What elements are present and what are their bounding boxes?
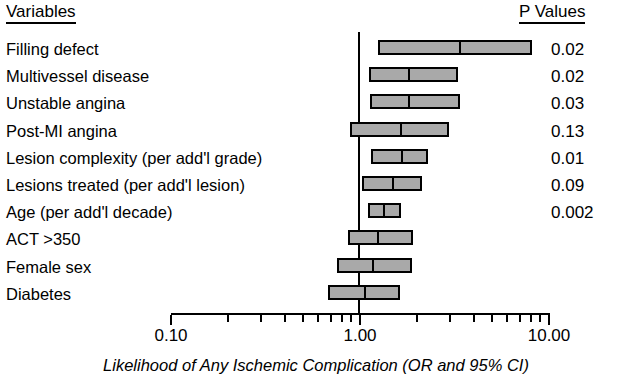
x-tick-label: 1.00 [343, 326, 376, 346]
point-estimate-marker [364, 285, 366, 300]
p-value: 0.09 [551, 177, 584, 194]
x-tick-minor [317, 315, 319, 322]
x-tick-minor [350, 315, 352, 322]
x-axis-title: Likelihood of Any Ischemic Complication … [0, 356, 632, 375]
point-estimate-marker [408, 94, 410, 109]
confidence-interval-bar [378, 40, 531, 55]
x-tick-minor [284, 315, 286, 322]
variables-header-label: Variables [6, 2, 76, 24]
x-tick-minor [506, 315, 508, 322]
point-estimate-marker [408, 67, 410, 82]
x-tick-minor [473, 315, 475, 322]
x-tick-minor [302, 315, 304, 322]
point-estimate-marker [383, 203, 385, 218]
row-label: Lesions treated (per add'l lesion) [6, 177, 245, 194]
point-estimate-marker [459, 40, 461, 55]
p-value: 0.02 [551, 41, 584, 58]
point-estimate-marker [372, 258, 374, 273]
confidence-interval-bar [369, 67, 458, 82]
confidence-interval-bar [328, 285, 400, 300]
x-tick-minor [519, 315, 521, 322]
row-label: Age (per add'l decade) [6, 204, 172, 221]
confidence-interval-bar [348, 230, 413, 245]
point-estimate-marker [401, 149, 403, 164]
p-value: 0.02 [551, 68, 584, 85]
row-label: Multivessel disease [6, 68, 149, 85]
point-estimate-marker [377, 230, 379, 245]
row-label: Unstable angina [6, 95, 125, 112]
p-value: 0.03 [551, 95, 584, 112]
x-tick-minor [530, 315, 532, 322]
confidence-interval-bar [362, 176, 422, 191]
p-value: 0.01 [551, 150, 584, 167]
x-tick-minor [416, 315, 418, 322]
p-value: 0.13 [551, 123, 584, 140]
pvalues-header: P Values [519, 2, 585, 22]
confidence-interval-bar [350, 122, 449, 137]
x-tick-minor [330, 315, 332, 322]
confidence-interval-bar [337, 258, 411, 273]
point-estimate-marker [392, 176, 394, 191]
confidence-interval-bar [368, 203, 401, 218]
x-tick-major [548, 315, 550, 325]
x-tick-minor [449, 315, 451, 322]
row-label: Female sex [6, 259, 91, 276]
row-label: Post-MI angina [6, 123, 117, 140]
x-tick-major [170, 315, 172, 325]
x-tick-label: 10.00 [528, 326, 571, 346]
row-label: ACT >350 [6, 231, 80, 248]
x-tick-minor [341, 315, 343, 322]
x-tick-major [359, 315, 361, 325]
point-estimate-marker [400, 122, 402, 137]
forest-plot: Variables P Values Filling defect0.02Mul… [0, 0, 632, 384]
variables-header: Variables [6, 2, 76, 22]
x-tick-minor [227, 315, 229, 322]
row-label: Filling defect [6, 41, 99, 58]
x-tick-minor [539, 315, 541, 322]
confidence-interval-bar [371, 149, 429, 164]
p-value: 0.002 [551, 204, 594, 221]
x-tick-minor [491, 315, 493, 322]
pvalues-header-label: P Values [519, 2, 585, 24]
row-label: Lesion complexity (per add'l grade) [6, 150, 262, 167]
x-tick-label: 0.10 [154, 326, 187, 346]
x-tick-minor [260, 315, 262, 322]
row-label: Diabetes [6, 286, 71, 303]
confidence-interval-bar [370, 94, 460, 109]
